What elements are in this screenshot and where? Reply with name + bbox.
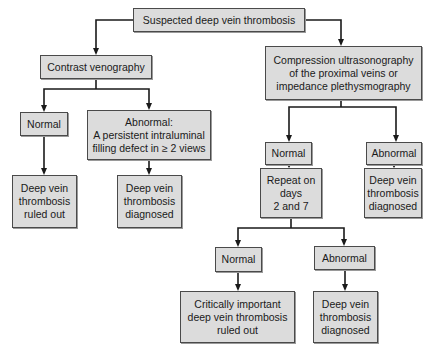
node-venography-dvt-diagnosed: Deep vein thrombosis diagnosed <box>117 175 182 228</box>
node-repeat-dvt-diagnosed: Deep vein thrombosis diagnosed <box>313 291 378 343</box>
node-repeat-abnormal: Abnormal <box>314 246 375 270</box>
node-contrast-venography: Contrast venography <box>40 55 152 79</box>
node-venography-normal: Normal <box>20 112 68 136</box>
node-ultrasound-abnormal: Abnormal <box>366 142 422 165</box>
node-critical-dvt-ruled-out: Critically important deep vein thrombosi… <box>180 291 295 343</box>
node-repeat-normal: Normal <box>215 247 262 272</box>
node-venography-dvt-ruled-out: Deep vein thrombosis ruled out <box>12 175 77 228</box>
node-repeat-days: Repeat on days 2 and 7 <box>260 168 322 218</box>
node-venography-abnormal: Abnormal: A persistent intraluminal fill… <box>87 110 211 160</box>
node-compression-ultrasonography: Compression ultrasonography of the proxi… <box>265 46 422 100</box>
node-ultrasound-dvt-diagnosed: Deep vein thrombosis diagnosed <box>364 168 422 218</box>
node-ultrasound-normal: Normal <box>265 142 312 165</box>
node-suspected-dvt: Suspected deep vein thrombosis <box>133 8 305 32</box>
